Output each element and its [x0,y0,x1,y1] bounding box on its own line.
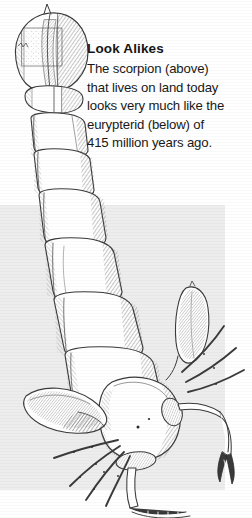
cephalothorax [99,377,186,472]
caption-body: The scorpion (above) that lives on land … [87,60,247,153]
caption-title: Look Alikes [87,41,247,56]
caption-line: The scorpion (above) [87,60,247,79]
eye [148,418,150,420]
right-pedipalp-claw [166,281,209,380]
illustration-page: Look Alikes The scorpion (above) that li… [0,0,252,518]
caption-line: that lives on land today [87,79,247,98]
center-front-leg [127,468,190,518]
caption-line: 415 million years ago. [87,134,247,153]
caption-line: eurypterid (below) of [87,116,247,135]
eye [137,426,140,429]
right-front-leg [178,403,234,484]
caption-block: Look Alikes The scorpion (above) that li… [87,41,247,153]
telson-stinger [12,4,92,96]
caption-line: looks very much like the [87,97,247,116]
